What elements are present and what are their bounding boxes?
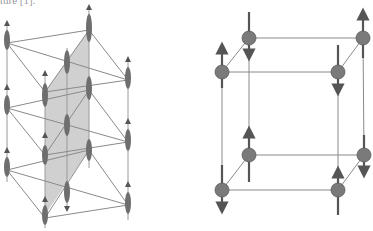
right-unit-cell-figure <box>215 12 371 215</box>
lattice-atoms <box>4 14 131 225</box>
left-lattice-figure <box>4 4 131 228</box>
cell-atoms <box>215 31 371 197</box>
figure-canvas <box>0 0 373 231</box>
cell-edges <box>222 38 364 190</box>
